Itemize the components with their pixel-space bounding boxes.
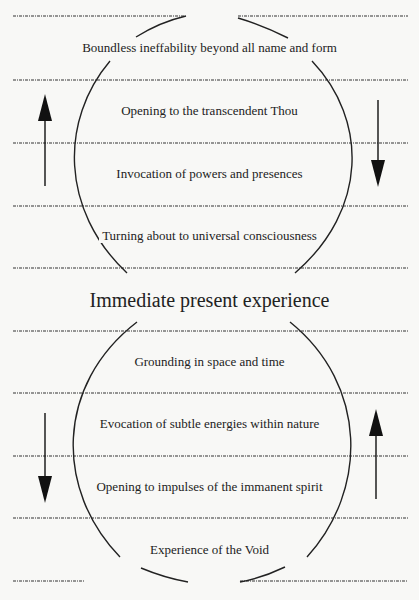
- level-lower-2: Evocation of subtle energies within natu…: [0, 416, 419, 432]
- lower-arc-bottom-left: [141, 568, 188, 582]
- lower-arc-bottom-right: [240, 567, 285, 582]
- level-upper-2: Opening to the transcendent Thou: [0, 103, 419, 119]
- upper-arc-top-right: [238, 18, 288, 38]
- level-upper-1: Boundless ineffability beyond all name a…: [0, 40, 419, 56]
- level-lower-4: Experience of the Void: [0, 542, 419, 558]
- level-lower-1: Grounding in space and time: [0, 354, 419, 370]
- upper-arc-top-left: [136, 16, 186, 37]
- level-lower-3: Opening to impulses of the immanent spir…: [0, 479, 419, 495]
- level-upper-3: Invocation of powers and presences: [0, 166, 419, 182]
- level-upper-4: Turning about to universal consciousness: [0, 228, 419, 244]
- center-label: Immediate present experience: [0, 288, 419, 312]
